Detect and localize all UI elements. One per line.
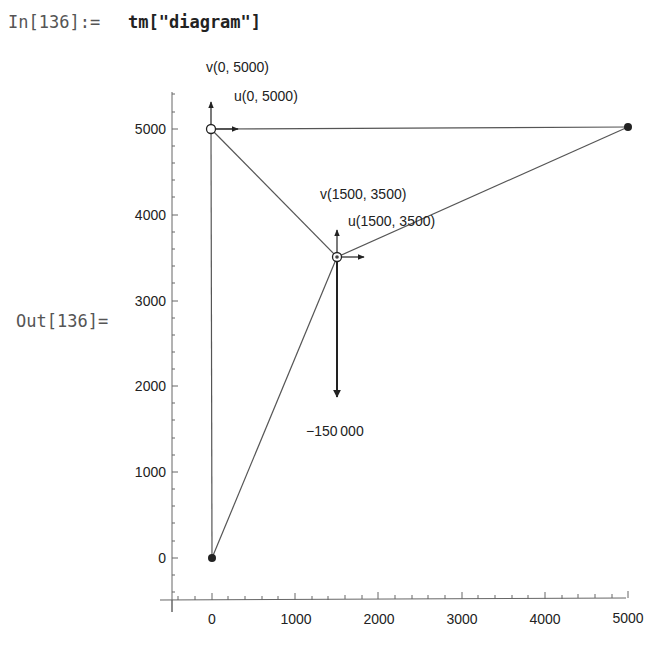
svg-text:5000: 5000: [135, 121, 166, 137]
truss-diagram: 5000 4000 3000 2000 1000 0 0 1000 2000 3…: [0, 0, 663, 645]
x-tick-labels: 0 1000 2000 3000 4000 5000: [208, 610, 644, 627]
y-tick-labels: 5000 4000 3000 2000 1000 0: [135, 121, 166, 566]
load-label: −150 000: [306, 423, 364, 439]
x-axis: [160, 591, 628, 612]
svg-text:4000: 4000: [529, 611, 560, 627]
svg-text:2000: 2000: [363, 611, 394, 627]
svg-text:5000: 5000: [612, 610, 643, 626]
label-v-n3: v(1500, 3500): [320, 186, 406, 202]
svg-text:2000: 2000: [135, 378, 166, 394]
svg-text:3000: 3000: [135, 293, 166, 309]
svg-text:1000: 1000: [280, 611, 311, 627]
dof-arrows-n3: [337, 230, 364, 257]
svg-text:3000: 3000: [446, 611, 477, 627]
member-n2-n4: [211, 127, 628, 129]
svg-text:0: 0: [208, 611, 216, 627]
node-fixed-origin: [208, 554, 216, 562]
truss-members: [211, 127, 628, 558]
svg-text:0: 0: [158, 550, 166, 566]
member-n1-n3: [212, 257, 337, 558]
label-u-n3: u(1500, 3500): [348, 213, 435, 229]
svg-text:4000: 4000: [135, 207, 166, 223]
dof-arrows-n2: [211, 102, 238, 129]
label-v-n2: v(0, 5000): [206, 59, 269, 75]
svg-text:1000: 1000: [135, 464, 166, 480]
member-n2-n3: [211, 129, 337, 257]
node-fixed-5000-5000: [624, 123, 632, 131]
y-axis: [172, 92, 178, 612]
dof-labels: v(0, 5000) u(0, 5000) v(1500, 3500) u(15…: [206, 59, 435, 229]
label-u-n2: u(0, 5000): [234, 88, 298, 104]
node-free-0-5000: [207, 125, 216, 134]
member-n1-n2: [211, 129, 212, 558]
